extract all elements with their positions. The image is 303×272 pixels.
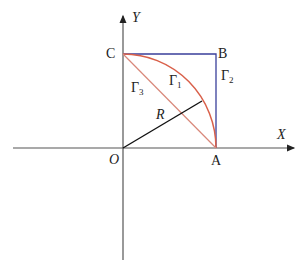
x-axis-label: X (276, 127, 286, 142)
gamma3-label: Γ3 (131, 80, 144, 97)
point-c-label: C (106, 46, 115, 61)
origin-label: O (109, 152, 119, 167)
gamma3-chord (123, 54, 216, 148)
gamma1-label: Γ1 (169, 73, 182, 90)
point-a-label: A (211, 153, 222, 168)
diagram-canvas: Y X O A B C R Γ1 Γ2 Γ3 (0, 0, 303, 272)
radius-label: R (155, 107, 165, 122)
diagram-svg: Y X O A B C R Γ1 Γ2 Γ3 (0, 0, 303, 272)
y-axis-label: Y (132, 10, 142, 25)
point-b-label: B (218, 46, 227, 61)
gamma2-label: Γ2 (221, 68, 234, 85)
